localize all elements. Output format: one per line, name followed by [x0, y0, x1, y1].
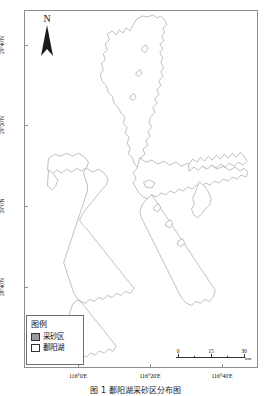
- scale-bar-unit: km: [245, 356, 251, 362]
- lon-tick-1: [150, 364, 151, 368]
- legend-item-poyang-lake[interactable]: 鄱阳湖: [31, 343, 79, 352]
- north-arrow-icon: [34, 25, 60, 58]
- lat-label-1: 29°20'N: [0, 102, 5, 148]
- scale-bar-labels: 0 15 30: [176, 348, 252, 356]
- lat-label-3: 28°40'N: [0, 264, 5, 310]
- lat-label-0: 29°40'N: [0, 22, 5, 68]
- legend-title: 图例: [31, 319, 79, 330]
- lon-label-2: 116°40'E: [192, 372, 252, 380]
- lat-tick-2: [24, 206, 28, 207]
- lat-tick-0: [24, 45, 28, 46]
- north-arrow: N: [34, 14, 60, 58]
- lat-tick-1: [24, 125, 28, 126]
- figure-caption: 图 1 鄱阳湖采砂区分布图: [0, 386, 271, 396]
- legend-swatch-sand-mining: [31, 333, 40, 341]
- lat-label-2: 29°0'N: [0, 183, 5, 229]
- legend-item-sand-mining[interactable]: 采砂区: [31, 332, 79, 341]
- scale-bar-tick-minor-1: [227, 356, 228, 358]
- lat-tick-3: [24, 287, 28, 288]
- legend-label-sand-mining: 采砂区: [43, 332, 64, 341]
- scale-bar-tick-0: [178, 354, 179, 358]
- scale-bar: 0 15 30 km: [176, 348, 252, 366]
- lake-outline-map: [25, 11, 257, 367]
- legend-box[interactable]: 图例 采砂区 鄱阳湖: [26, 315, 84, 365]
- scale-bar-tick-minor-0: [194, 356, 195, 358]
- lon-label-1: 116°20'E: [120, 372, 180, 380]
- poyang-lake-polygon: [48, 15, 248, 357]
- north-arrow-label: N: [34, 13, 60, 24]
- scale-bar-line: [176, 357, 244, 358]
- legend-swatch-poyang-lake: [31, 344, 40, 352]
- scale-bar-tick-1: [211, 354, 212, 358]
- legend-label-poyang-lake: 鄱阳湖: [43, 343, 64, 352]
- lon-label-0: 116°0'E: [48, 372, 108, 380]
